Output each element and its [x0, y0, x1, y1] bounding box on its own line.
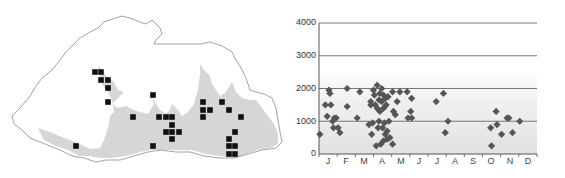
occurrence-marker	[105, 77, 111, 83]
occurrence-marker	[105, 85, 111, 91]
occurrence-marker	[226, 136, 232, 142]
occurrence-marker	[226, 151, 232, 157]
occurrence-marker	[232, 143, 238, 149]
x-label-sep: S	[466, 156, 480, 166]
chart-svg	[290, 0, 565, 178]
x-label-jan: J	[321, 156, 335, 166]
x-label-aug: A	[448, 156, 462, 166]
occurrence-marker	[226, 143, 232, 149]
x-label-dec: D	[521, 156, 535, 166]
y-label-0: 0	[290, 148, 316, 158]
occurrence-marker	[156, 114, 162, 120]
occurrence-marker	[232, 129, 238, 135]
occurrence-marker	[238, 114, 244, 120]
y-label-3000: 3000	[290, 50, 316, 60]
x-label-mar: M	[357, 156, 371, 166]
x-label-jul: J	[430, 156, 444, 166]
y-label-1000: 1000	[290, 116, 316, 126]
occurrence-marker	[169, 136, 175, 142]
occurrence-marker	[150, 143, 156, 149]
x-label-oct: O	[484, 156, 498, 166]
occurrence-marker	[163, 114, 169, 120]
occurrence-marker	[226, 107, 232, 113]
occurrence-marker	[98, 69, 104, 75]
occurrence-marker	[105, 99, 111, 105]
occurrence-marker	[92, 69, 98, 75]
occurrence-marker	[219, 99, 225, 105]
occurrence-marker	[176, 129, 182, 135]
occurrence-marker	[200, 107, 206, 113]
occurrence-marker	[200, 114, 206, 120]
occurrence-marker	[207, 107, 213, 113]
occurrence-marker	[200, 99, 206, 105]
x-label-nov: N	[503, 156, 517, 166]
x-label-may: M	[394, 156, 408, 166]
x-label-jun: J	[412, 156, 426, 166]
occurrence-marker	[232, 151, 238, 157]
y-label-2000: 2000	[290, 83, 316, 93]
occurrence-marker	[130, 114, 136, 120]
occurrence-marker	[163, 129, 169, 135]
occurrence-marker	[169, 122, 175, 128]
map-svg	[0, 0, 290, 178]
occurrence-marker	[73, 143, 79, 149]
y-label-4000: 4000	[290, 17, 316, 27]
occurrence-marker	[169, 114, 175, 120]
x-label-apr: A	[375, 156, 389, 166]
x-label-feb: F	[339, 156, 353, 166]
occurrence-marker	[98, 77, 104, 83]
distribution-map	[0, 0, 290, 178]
elevation-month-scatter: 4000 3000 2000 1000 0 J F M A M J J A S …	[290, 0, 565, 178]
occurrence-marker	[150, 92, 156, 98]
occurrence-marker	[169, 129, 175, 135]
